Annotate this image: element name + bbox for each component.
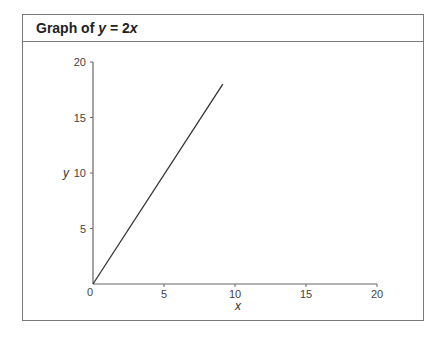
x-tick-label: 20 bbox=[371, 288, 383, 300]
y-tick-label: 5 bbox=[80, 223, 86, 235]
y-tick-label: 10 bbox=[74, 167, 86, 179]
y-axis-label: y bbox=[62, 166, 70, 180]
x-axis-label: x bbox=[234, 299, 242, 313]
y-tick-label: 20 bbox=[74, 56, 86, 68]
plot-area: 20 15 10 5 0 5 10 15 20 x y bbox=[0, 0, 447, 341]
x-tick-label: 5 bbox=[161, 288, 167, 300]
origin-label: 0 bbox=[87, 286, 93, 298]
y-tick-label: 15 bbox=[74, 112, 86, 124]
x-tick-label: 15 bbox=[300, 288, 312, 300]
data-line-y-equals-2x bbox=[93, 84, 223, 284]
